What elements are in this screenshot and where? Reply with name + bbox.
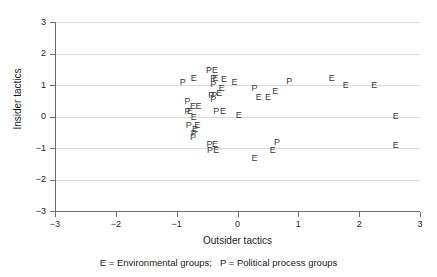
x-axis-tick-label: −2 bbox=[106, 220, 126, 229]
data-point-marker-p: P bbox=[178, 78, 188, 87]
data-point-marker-p: P bbox=[284, 77, 294, 86]
y-axis-tick-label: −1 bbox=[22, 144, 46, 153]
data-point-marker-p: P bbox=[205, 146, 215, 155]
x-axis-tick bbox=[420, 212, 421, 217]
data-point-marker-e: E bbox=[391, 141, 401, 150]
data-point-marker-p: P bbox=[183, 107, 193, 116]
x-axis-tick-label: 3 bbox=[410, 220, 430, 229]
x-axis-tick-label: 1 bbox=[288, 220, 308, 229]
x-axis-title: Outsider tactics bbox=[55, 236, 420, 246]
gridline bbox=[55, 54, 420, 55]
data-point-marker-e: E bbox=[391, 112, 401, 121]
y-axis-tick-label: 0 bbox=[22, 112, 46, 121]
gridline bbox=[55, 180, 420, 181]
x-axis-tick-label: −1 bbox=[167, 220, 187, 229]
y-axis-tick-label: 2 bbox=[22, 49, 46, 58]
x-axis-tick-label: −3 bbox=[45, 220, 65, 229]
gridline bbox=[55, 22, 420, 23]
y-axis-tick-label: 3 bbox=[22, 18, 46, 27]
y-axis-tick bbox=[50, 22, 55, 23]
y-axis-title: Insider tactics bbox=[13, 29, 23, 169]
y-axis-tick bbox=[50, 117, 55, 118]
x-axis-tick bbox=[116, 212, 117, 217]
scatter-plot-figure: EEEEEEEEEEEEEEEEEEEEEEEEEEEPPPPPPPPPPPPP… bbox=[0, 0, 437, 277]
x-axis-tick-label: 0 bbox=[228, 220, 248, 229]
y-axis-tick bbox=[50, 85, 55, 86]
data-point-marker-e: E bbox=[234, 111, 244, 120]
x-axis-tick bbox=[55, 212, 56, 217]
y-axis-line bbox=[55, 22, 56, 211]
data-point-marker-p: P bbox=[188, 133, 198, 142]
data-point-marker-p: P bbox=[208, 95, 218, 104]
data-point-marker-e: E bbox=[194, 102, 204, 111]
y-axis-tick bbox=[50, 54, 55, 55]
x-axis-tick bbox=[298, 212, 299, 217]
x-axis-tick bbox=[238, 212, 239, 217]
data-point-marker-e: E bbox=[250, 154, 260, 163]
data-point-marker-p: P bbox=[211, 107, 221, 116]
data-point-marker-p: P bbox=[208, 80, 218, 89]
data-point-marker-p: P bbox=[250, 84, 260, 93]
y-axis-tick-label: 1 bbox=[22, 81, 46, 90]
gridline bbox=[55, 148, 420, 149]
x-axis-tick-label: 2 bbox=[349, 220, 369, 229]
x-axis-tick bbox=[177, 212, 178, 217]
y-axis-tick-label: −2 bbox=[22, 175, 46, 184]
data-point-marker-e: E bbox=[189, 74, 199, 83]
data-point-marker-e: E bbox=[229, 78, 239, 87]
data-point-marker-e: E bbox=[369, 81, 379, 90]
y-axis-tick bbox=[50, 148, 55, 149]
data-point-marker-p: P bbox=[272, 138, 282, 147]
legend-caption: E = Environmental groups; P = Political … bbox=[0, 258, 437, 268]
data-point-marker-p: P bbox=[183, 97, 193, 106]
data-point-marker-e: E bbox=[327, 74, 337, 83]
data-point-marker-e: E bbox=[263, 93, 273, 102]
plot-area: EEEEEEEEEEEEEEEEEEEEEEEEEEEPPPPPPPPPPPPP… bbox=[55, 22, 420, 211]
data-point-marker-e: E bbox=[341, 81, 351, 90]
y-axis-tick-label: −3 bbox=[22, 207, 46, 216]
y-axis-tick bbox=[50, 180, 55, 181]
x-axis-tick bbox=[359, 212, 360, 217]
